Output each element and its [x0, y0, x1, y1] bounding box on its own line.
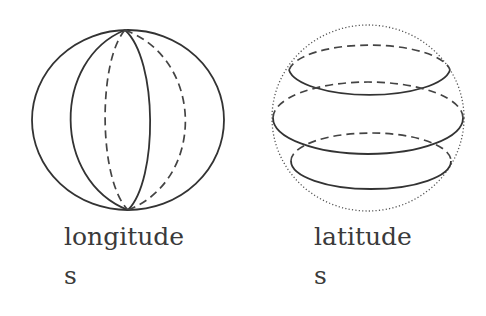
latitude-label-line-2: s	[314, 256, 412, 295]
meridian-back-right	[125, 30, 185, 210]
meridian-back-left	[105, 30, 128, 210]
longitude-sphere	[32, 30, 224, 210]
latitude-label-line-1: latitude	[314, 217, 412, 256]
parallel-top-back	[289, 45, 450, 70]
sphere-outline-dotted	[272, 25, 464, 211]
meridian-front-left	[71, 30, 128, 210]
parallel-middle-front	[273, 118, 463, 154]
meridian-front-right	[125, 30, 150, 210]
longitude-label-line-2: s	[64, 256, 184, 295]
latitude-label: latitude s	[314, 217, 412, 295]
longitude-label-line-1: longitude	[64, 217, 184, 256]
parallel-middle-back	[273, 82, 463, 118]
parallel-bottom-front	[291, 161, 451, 189]
longitude-label: longitude s	[64, 217, 184, 295]
sphere-outline	[32, 30, 224, 210]
latitude-sphere	[272, 25, 464, 211]
